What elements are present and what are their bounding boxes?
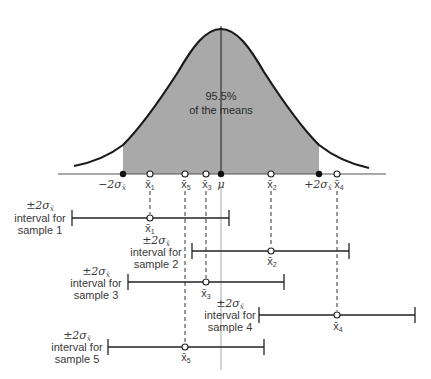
sample-4-mean-label: x̄4 — [333, 320, 343, 333]
sample-4-line2: interval for — [204, 309, 256, 321]
sample-5-line2: interval for — [51, 341, 103, 353]
of-the-means-label: of the means — [189, 104, 253, 116]
sample-5-mean-point — [182, 344, 188, 350]
x3-label: x̄3 — [202, 178, 212, 191]
x4-label: x̄4 — [334, 178, 344, 191]
sample-3-line3: sample 3 — [74, 289, 119, 301]
sample-1-pm-label: ±2σx̄ — [26, 199, 54, 213]
x1-label: x̄1 — [145, 178, 155, 191]
mu-point — [218, 171, 224, 177]
sample-1-line3: sample 1 — [18, 224, 63, 236]
x2-point — [268, 171, 274, 177]
x2-label: x̄2 — [267, 178, 277, 191]
plus-two-sigma-point — [316, 171, 322, 177]
sample-2-line3: sample 2 — [134, 258, 179, 270]
percentage-label: 95.5% — [205, 90, 236, 102]
plus-two-sigma-label: +2σx̄ — [304, 178, 332, 192]
x1-point — [147, 171, 153, 177]
sample-2-mean-point — [268, 248, 274, 254]
sample-4-line3: sample 4 — [208, 321, 253, 333]
sample-5-mean-label: x̄5 — [181, 351, 191, 364]
sample-3-mean-label: x̄3 — [201, 287, 211, 300]
sampling-distribution-diagram: 95.5% of the means −2σx̄ x̄1 x̄5 x̄3 μ x… — [0, 0, 431, 379]
sample-1-line2: interval for — [14, 212, 66, 224]
sample-2-mean-label: x̄2 — [267, 255, 277, 268]
mu-label: μ — [217, 178, 224, 191]
minus-two-sigma-label: −2σx̄ — [98, 178, 126, 192]
sample-3-line2: interval for — [70, 277, 122, 289]
x4-point — [334, 171, 340, 177]
x3-point — [203, 171, 209, 177]
sample-5-line3: sample 5 — [55, 353, 100, 365]
sample-1-mean-point — [147, 215, 153, 221]
sample-4-mean-point — [334, 312, 340, 318]
sample-3-mean-point — [203, 279, 209, 285]
minus-two-sigma-point — [120, 171, 126, 177]
sample-2-line2: interval for — [130, 246, 182, 258]
x5-point — [182, 171, 188, 177]
x5-label: x̄5 — [181, 178, 191, 191]
